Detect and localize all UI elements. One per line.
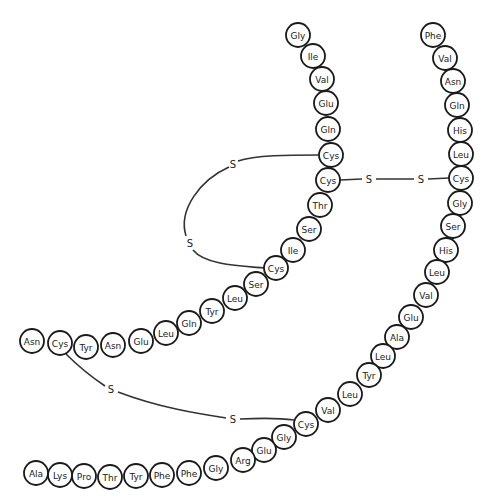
residue-label: Cys <box>453 174 470 184</box>
residue-ile: Ile <box>301 44 325 68</box>
residue-label: Glu <box>256 446 271 456</box>
residue-glu: Glu <box>314 91 338 115</box>
residue-asn: Asn <box>101 333 125 357</box>
sulfur-label: S <box>230 159 236 170</box>
residue-label: Ile <box>308 52 319 62</box>
residue-label: Ser <box>302 225 317 235</box>
residue-leu: Leu <box>449 142 473 166</box>
residue-label: Cys <box>298 420 315 430</box>
residue-label: Tyr <box>128 472 142 482</box>
residue-leu: Leu <box>154 321 178 345</box>
residue-label: Thr <box>102 473 118 483</box>
residue-asn: Asn <box>441 69 465 93</box>
residue-tyr: Tyr <box>124 464 148 488</box>
bond-line <box>340 178 449 180</box>
residue-label: Gly <box>291 31 306 41</box>
residue-label: Leu <box>453 150 469 160</box>
residue-ser: Ser <box>441 214 465 238</box>
residue-label: Lys <box>53 471 68 481</box>
residue-label: Gly <box>209 464 224 474</box>
residue-label: Val <box>315 75 328 85</box>
residue-label: Val <box>438 54 451 64</box>
residue-leu: Leu <box>338 382 362 406</box>
residue-label: Val <box>321 406 334 416</box>
residue-label: Ala <box>29 469 43 479</box>
residue-gln: Gln <box>177 311 201 335</box>
sulfur-label: S <box>108 384 114 395</box>
residue-phe: Phe <box>177 461 201 485</box>
residue-phe: Phe <box>150 463 174 487</box>
residue-label: Ile <box>288 246 299 256</box>
insulin-structure-diagram: SSSSSS GlyIleValGluGlnCysCysThrSerIleCys… <box>0 0 498 498</box>
residue-tyr: Tyr <box>200 299 224 323</box>
residue-gly: Gly <box>204 456 228 480</box>
residue-label: Leu <box>158 329 174 339</box>
residue-label: Gly <box>453 199 468 209</box>
residue-asn: Asn <box>20 329 44 353</box>
residue-label: Ala <box>390 333 404 343</box>
sulfur-label: S <box>187 238 193 249</box>
sulfur-label: S <box>366 174 372 185</box>
residue-thr: Thr <box>98 465 122 489</box>
residue-phe: Phe <box>421 23 445 47</box>
residue-val: Val <box>433 46 457 70</box>
residue-label: Tyr <box>204 307 218 317</box>
residue-label: Cys <box>320 176 337 186</box>
residue-gln: Gln <box>445 93 469 117</box>
residue-arg: Arg <box>231 448 255 472</box>
disulfide-bond-interchain-A20-B19: SS <box>66 354 294 425</box>
residue-lys: Lys <box>48 463 72 487</box>
residue-pro: Pro <box>72 464 96 488</box>
residue-label: Asn <box>445 77 462 87</box>
residue-label: Val <box>419 291 432 301</box>
sulfur-label: S <box>230 414 236 425</box>
residue-leu: Leu <box>223 286 247 310</box>
residue-label: Asn <box>24 337 41 347</box>
residue-label: Glu <box>403 313 418 323</box>
residue-label: Glu <box>133 337 148 347</box>
residue-cys: Cys <box>294 412 318 436</box>
residue-label: Cys <box>323 151 340 161</box>
residue-gly: Gly <box>448 191 472 215</box>
residue-ala: Ala <box>24 461 48 485</box>
residue-cys: Cys <box>316 168 340 192</box>
residue-ser: Ser <box>297 217 321 241</box>
residue-tyr: Tyr <box>74 335 98 359</box>
residue-label: Ser <box>249 280 264 290</box>
residue-leu: Leu <box>425 260 449 284</box>
residue-label: Tyr <box>361 371 375 381</box>
residue-label: Arg <box>235 456 250 466</box>
residue-gln: Gln <box>316 117 340 141</box>
residue-label: Gln <box>320 125 335 135</box>
residue-label: Thr <box>312 201 328 211</box>
residue-thr: Thr <box>308 193 332 217</box>
residue-label: Asn <box>105 341 122 351</box>
residue-label: Gly <box>277 433 292 443</box>
residue-label: Phe <box>154 471 171 481</box>
residue-gly: Gly <box>286 23 310 47</box>
residue-label: Cys <box>268 264 285 274</box>
residue-val: Val <box>316 398 340 422</box>
residue-label: Glu <box>318 99 333 109</box>
disulfide-bond-interchain-A7-B7: SS <box>340 174 449 185</box>
residue-tyr: Tyr <box>357 363 381 387</box>
residue-val: Val <box>310 67 334 91</box>
residue-label: Pro <box>77 472 92 482</box>
residue-glu: Glu <box>129 329 153 353</box>
residue-label: Leu <box>375 352 391 362</box>
residue-label: Gln <box>181 319 196 329</box>
residue-his: His <box>448 118 472 142</box>
residue-label: His <box>453 126 467 136</box>
residue-label: Phe <box>425 31 442 41</box>
a-chain: GlyIleValGluGlnCysCysThrSerIleCysSerLeuT… <box>20 23 343 359</box>
residue-his: His <box>434 238 458 262</box>
residue-label: Gln <box>449 101 464 111</box>
residue-label: Tyr <box>78 343 92 353</box>
residue-cys: Cys <box>48 331 72 355</box>
residue-label: Phe <box>181 469 198 479</box>
residue-val: Val <box>414 283 438 307</box>
residue-label: Ser <box>446 222 461 232</box>
residue-cys: Cys <box>449 166 473 190</box>
bond-line <box>66 354 294 420</box>
residue-ser: Ser <box>244 272 268 296</box>
